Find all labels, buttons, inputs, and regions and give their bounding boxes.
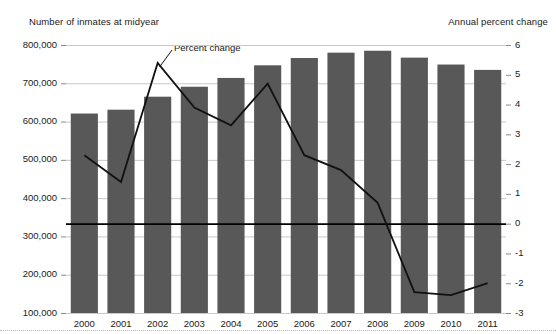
left-axis-tick-label: 400,000 [5,192,57,203]
right-axis-tick-label: 3 [515,128,545,139]
bar [327,53,354,313]
x-axis-tick-label: 2011 [466,318,510,329]
bar [437,65,464,313]
annotation-leader [160,50,172,67]
bar [364,51,391,313]
right-axis-tick-label: 6 [515,39,545,50]
bar [401,58,428,313]
left-axis-tick-label: 300,000 [5,230,57,241]
annotation-leader-line [160,50,172,67]
right-axis-tick-label: -1 [515,247,545,258]
bar [144,97,171,313]
left-axis-tick-label: 800,000 [5,39,57,50]
right-axis-tick-label: 4 [515,98,545,109]
right-axis-ticks-group [506,46,511,314]
right-axis-tick-label: 1 [515,187,545,198]
bars-group [71,51,501,313]
bar [107,110,134,313]
right-axis-tick-label: 5 [515,68,545,79]
bar [181,87,208,313]
left-axis-tick-label: 500,000 [5,153,57,164]
right-axis-tick-label: -3 [515,307,545,318]
chart-container: Number of inmates at midyear Annual perc… [0,0,556,334]
chart-canvas [0,0,556,334]
bottom-divider [0,330,556,332]
bar [291,58,318,313]
left-axis-tick-label: 100,000 [5,307,57,318]
right-axis-tick-label: 2 [515,158,545,169]
left-axis-tick-label: 200,000 [5,268,57,279]
left-axis-ticks-group [61,46,66,314]
left-axis-tick-label: 600,000 [5,115,57,126]
right-axis-tick-label: -2 [515,277,545,288]
bar [71,114,98,313]
right-axis-tick-label: 0 [515,217,545,228]
bar [217,78,244,313]
bar [474,70,501,313]
left-axis-tick-label: 700,000 [5,77,57,88]
